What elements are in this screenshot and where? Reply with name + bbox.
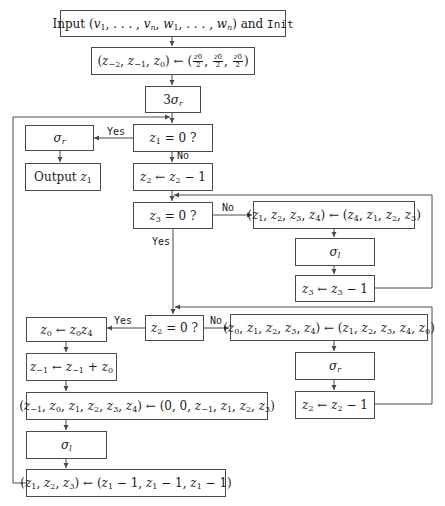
input-box: Input (v1, . . . , vn, w1, . . . , wn) a… <box>60 10 286 37</box>
perm-5-box: (z0, z1, z2, z3, z4) ← (z1, z2, z3, z4, … <box>230 314 428 341</box>
dec-z2-box: z2 ← z2 − 1 <box>133 163 213 191</box>
sigma-r-final-box: σr <box>25 125 94 151</box>
dec-z3-text: z3 ← z3 − 1 <box>302 282 368 296</box>
edge-label-z1-no: No <box>177 150 189 161</box>
perm-4-box: (z1, z2, z3, z4) ← (z4, z1, z2, z3) <box>253 201 415 229</box>
edge-label-z2-no: No <box>210 315 222 326</box>
perm-5-text: (z0, z1, z2, z3, z4) ← (z1, z2, z3, z4, … <box>223 321 435 335</box>
output-text: Output z1 <box>34 170 92 184</box>
dec-z2-text: z2 ← z2 − 1 <box>140 170 206 184</box>
reset-123-box: (z1, z2, z3) ← (z1 − 1, z1 − 1, z1 − 1) <box>26 469 226 497</box>
sigma-l-left-text: σl <box>61 438 72 452</box>
test-z2-box: z2 = 0 ? <box>145 315 204 341</box>
mul-z0-text: z0 ← z0z4 <box>41 323 93 337</box>
input-text: Input (v1, . . . , vn, w1, . . . , wn) a… <box>52 17 293 31</box>
shift-6-box: (z−1, z0, z1, z2, z3, z4) ← (0, 0, z−1, … <box>26 392 268 420</box>
test-z2-text: z2 = 0 ? <box>151 321 198 335</box>
test-z1-box: z1 = 0 ? <box>133 124 213 152</box>
dec-z2-right-text: z2 ← z2 − 1 <box>302 398 368 412</box>
sigma-r-final-text: σr <box>53 131 65 145</box>
edge-label-z1-yes: Yes <box>107 126 125 137</box>
sigma-l-right-box: σl <box>295 238 375 266</box>
test-z1-text: z1 = 0 ? <box>150 131 197 145</box>
flowchart: Input (v1, . . . , vn, w1, . . . , wn) a… <box>0 0 445 506</box>
edge-label-z2-yes: Yes <box>114 315 132 326</box>
output-box: Output z1 <box>25 163 101 191</box>
edge-label-z3-no: No <box>222 202 234 213</box>
sigma-r-right-box: σr <box>295 352 375 380</box>
add-zm1-box: z−1 ← z−1 + z0 <box>26 353 117 381</box>
add-zm1-text: z−1 ← z−1 + z0 <box>30 360 113 374</box>
mul-z0-box: z0 ← z0z4 <box>26 317 107 342</box>
sigma-r-right-text: σr <box>329 359 341 373</box>
three-sigma-r-text: 3σr <box>163 93 183 107</box>
perm-4-text: (z1, z2, z3, z4) ← (z4, z1, z2, z3) <box>247 208 421 222</box>
sigma-l-right-text: σl <box>330 245 341 259</box>
three-sigma-r-box: 3σr <box>145 86 201 113</box>
init-assign-text: (z−2, z−1, z0) ← (z02, z02, z02) <box>97 54 248 69</box>
dec-z2-right-box: z2 ← z2 − 1 <box>295 391 375 419</box>
reset-123-text: (z1, z2, z3) ← (z1 − 1, z1 − 1, z1 − 1) <box>20 476 231 490</box>
sigma-l-left-box: σl <box>26 431 107 459</box>
shift-6-text: (z−1, z0, z1, z2, z3, z4) ← (0, 0, z−1, … <box>19 399 275 413</box>
init-assign-box: (z−2, z−1, z0) ← (z02, z02, z02) <box>91 47 255 75</box>
test-z3-box: z3 = 0 ? <box>133 202 213 229</box>
edge-label-z3-yes: Yes <box>152 236 170 247</box>
test-z3-text: z3 = 0 ? <box>150 209 197 223</box>
dec-z3-box: z3 ← z3 − 1 <box>295 275 375 302</box>
